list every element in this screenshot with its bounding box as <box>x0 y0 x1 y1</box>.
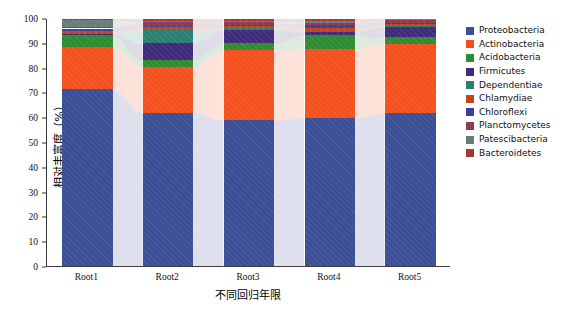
bar-segment[interactable] <box>62 35 113 47</box>
bar-group[interactable] <box>62 19 113 266</box>
bar-segment[interactable] <box>305 31 356 32</box>
bar-segment[interactable] <box>224 120 275 266</box>
bar-segment[interactable] <box>143 60 194 67</box>
legend-item[interactable]: Actinobacteria <box>466 38 562 52</box>
legend-label: Bacteroidetes <box>479 149 541 158</box>
x-axis-title: 不同回归年限 <box>46 286 450 302</box>
bar-segment[interactable] <box>305 35 356 49</box>
legend-swatch-icon <box>466 149 474 157</box>
bar-segment[interactable] <box>385 19 436 20</box>
legend-item[interactable]: Chloroflexi <box>466 106 562 120</box>
bar-segment[interactable] <box>224 22 275 25</box>
legend-label: Patescibacteria <box>479 135 548 144</box>
bar-stack <box>62 19 113 266</box>
legend-label: Chlamydiae <box>479 94 532 103</box>
bar-segment[interactable] <box>224 30 275 43</box>
bar-segment[interactable] <box>224 26 275 28</box>
legend-label: Planctomycetes <box>479 121 550 130</box>
bar-segment[interactable] <box>62 47 113 89</box>
legend-swatch-icon <box>466 108 474 116</box>
bar-segment[interactable] <box>305 49 356 118</box>
bar-segment[interactable] <box>385 37 436 43</box>
y-tick-label: 80 <box>29 64 39 74</box>
legend-swatch-icon <box>466 68 474 76</box>
bar-segment[interactable] <box>385 25 436 26</box>
bar-group[interactable] <box>305 19 356 266</box>
legend-item[interactable]: Proteobacteria <box>466 24 562 38</box>
legend: ProteobacteriaActinobacteriaAcidobacteri… <box>466 24 562 160</box>
bar-segment[interactable] <box>385 23 436 25</box>
legend-item[interactable]: Planctomycetes <box>466 119 562 133</box>
legend-label: Firmicutes <box>479 67 525 76</box>
bar-segment[interactable] <box>62 19 113 20</box>
legend-swatch-icon <box>466 40 474 48</box>
y-tick-label: 90 <box>29 39 39 49</box>
legend-label: Actinobacteria <box>479 40 544 49</box>
bar-segment[interactable] <box>143 21 194 22</box>
bar-segment[interactable] <box>224 28 275 29</box>
y-tick-label: 100 <box>24 14 38 24</box>
legend-item[interactable]: Firmicutes <box>466 65 562 79</box>
x-tick-label: Root3 <box>236 272 259 282</box>
bar-segment[interactable] <box>305 28 356 31</box>
bar-segment[interactable] <box>62 89 113 266</box>
bar-segment[interactable] <box>143 113 194 266</box>
bar-segment[interactable] <box>143 27 194 30</box>
legend-label: Chloroflexi <box>479 108 527 117</box>
bar-segment[interactable] <box>143 43 194 60</box>
stacked-bar-chart: 相对丰富度（%） 0102030405060708090100 Root1Roo… <box>0 0 562 309</box>
bar-segment[interactable] <box>385 27 436 38</box>
legend-swatch-icon <box>466 27 474 35</box>
bar-segment[interactable] <box>62 34 113 36</box>
bar-segment[interactable] <box>224 19 275 21</box>
bar-segment[interactable] <box>385 24 436 25</box>
bar-segment[interactable] <box>143 30 194 43</box>
bar-segment[interactable] <box>62 29 113 31</box>
y-tick-label: 60 <box>29 113 39 123</box>
legend-item[interactable]: Chlamydiae <box>466 92 562 106</box>
bar-stack <box>143 19 194 266</box>
bar-segment[interactable] <box>305 19 356 21</box>
bar-group[interactable] <box>143 19 194 266</box>
bar-segment[interactable] <box>224 25 275 27</box>
bar-segment[interactable] <box>143 22 194 25</box>
bar-segment[interactable] <box>385 113 436 266</box>
bar-segment[interactable] <box>224 43 275 50</box>
bar-segment[interactable] <box>305 21 356 22</box>
legend-swatch-icon <box>466 81 474 89</box>
bar-segment[interactable] <box>62 31 113 33</box>
bar-group[interactable] <box>385 19 436 266</box>
y-tick-label: 0 <box>33 262 38 272</box>
x-tick-label: Root5 <box>398 272 421 282</box>
legend-label: Proteobacteria <box>479 26 545 35</box>
bar-stack <box>224 19 275 266</box>
x-tick-label: Root4 <box>317 272 340 282</box>
bar-segment[interactable] <box>385 44 436 114</box>
bar-segment[interactable] <box>143 26 194 28</box>
legend-item[interactable]: Patescibacteria <box>466 133 562 147</box>
bar-segment[interactable] <box>305 118 356 266</box>
bar-segment[interactable] <box>62 27 113 29</box>
bar-segment[interactable] <box>305 23 356 26</box>
bar-group[interactable] <box>224 19 275 266</box>
bar-segment[interactable] <box>143 67 194 113</box>
bar-segment[interactable] <box>305 32 356 35</box>
legend-item[interactable]: Dependentiae <box>466 78 562 92</box>
legend-item[interactable]: Acidobacteria <box>466 51 562 65</box>
bar-segment[interactable] <box>62 33 113 34</box>
bar-segment[interactable] <box>62 20 113 27</box>
x-tick-label: Root1 <box>75 272 98 282</box>
bar-segment[interactable] <box>305 25 356 27</box>
legend-item[interactable]: Bacteroidetes <box>466 146 562 160</box>
bar-segment[interactable] <box>143 19 194 21</box>
legend-swatch-icon <box>466 122 474 130</box>
bar-segment[interactable] <box>224 21 275 22</box>
x-tick-label: Root2 <box>156 272 179 282</box>
y-tick-label: 70 <box>29 88 39 98</box>
legend-swatch-icon <box>466 136 474 144</box>
legend-swatch-icon <box>466 95 474 103</box>
bar-segment[interactable] <box>385 20 436 22</box>
bar-segment[interactable] <box>224 50 275 120</box>
plot-area <box>46 19 450 267</box>
legend-label: Dependentiae <box>479 81 542 90</box>
